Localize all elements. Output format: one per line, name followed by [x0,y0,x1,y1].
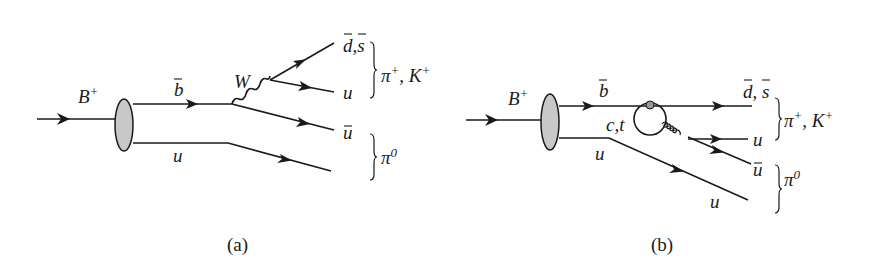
u-bar-label: u [753,159,763,180]
b-bar-label: b [599,80,609,101]
panel-b-penguin-diagram: B+ b c,t u d, s u u u π+, K+ π0 (b) [466,80,833,256]
d-s-bar-label: d, s [743,81,769,102]
u-label-lower: u [710,191,720,212]
caption-a: (a) [227,234,248,256]
panel-a-tree-diagram: B+ b W u d,s u u π+, K+ π0 (a) [37,34,430,256]
arrow-icon [296,117,310,127]
u-bar-quark-line [232,104,334,130]
d-s-bar-label: d,s [343,35,365,56]
brace-pi-plus [370,42,377,98]
spectator-u-label: u [173,145,183,166]
meson-pi-plus-k-plus-label: π+, K+ [784,108,833,131]
b-bar-label: b [174,79,184,100]
b-meson-label: B+ [508,86,528,109]
brace-pi-plus [775,98,782,140]
gluon-line [662,122,680,135]
brace-pi-zero [370,134,377,180]
brace-pi-zero [775,165,782,213]
arrow-icon [277,154,292,163]
spectator-u-label: u [595,143,605,164]
b-meson-label: B+ [78,84,98,107]
loop-vertex-dot [646,101,654,109]
u-label: u [753,129,763,150]
u-label: u [343,82,353,103]
arrow-icon [293,59,306,69]
loop-quark-label: c,t [606,114,625,135]
hadron-blob [115,99,133,151]
u-bar-label: u [343,122,353,143]
meson-pi-zero-label: π0 [381,145,398,168]
meson-pi-plus-k-plus-label: π+, K+ [381,63,430,86]
spectator-u-line [559,138,748,200]
meson-pi-zero-label: π0 [784,167,801,190]
spectator-u-line [133,143,331,171]
w-boson-label: W [234,71,252,92]
hadron-blob [541,94,559,150]
caption-b: (b) [651,234,673,256]
feynman-diagrams-figure: B+ b W u d,s u u π+, K+ π0 (a) [0,0,869,269]
